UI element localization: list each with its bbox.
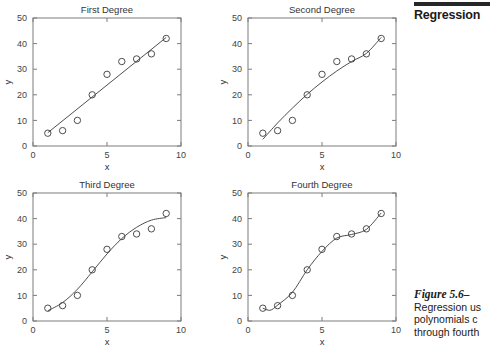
y-tick-label: 20 — [232, 265, 242, 275]
y-tick-label: 0 — [237, 316, 242, 326]
fit-curve — [48, 218, 166, 311]
y-axis-label: y — [2, 79, 13, 84]
x-tick-label: 5 — [319, 150, 324, 160]
y-tick-label: 20 — [17, 90, 27, 100]
y-tick-label: 50 — [232, 188, 242, 198]
x-axis-label: x — [105, 336, 110, 347]
data-point-marker — [334, 233, 340, 239]
plot-panel-third-degree: Third Degree 010203040500510xy — [0, 175, 246, 349]
plot-panel-first-degree: First Degree 010203040500510xy — [0, 0, 246, 175]
data-point-marker — [163, 35, 169, 41]
y-tick-label: 0 — [22, 141, 27, 151]
plot-frame — [33, 193, 181, 321]
x-tick-label: 0 — [245, 325, 250, 335]
figure-caption-title: Figure 5.6– — [414, 288, 492, 301]
x-tick-label: 10 — [176, 325, 186, 335]
data-point-marker — [334, 58, 340, 64]
y-tick-label: 10 — [232, 291, 242, 301]
x-tick-label: 0 — [30, 325, 35, 335]
y-tick-label: 30 — [232, 239, 242, 249]
y-tick-label: 40 — [17, 214, 27, 224]
data-point-marker — [378, 35, 384, 41]
x-axis-label: x — [320, 161, 325, 172]
plot-panel-second-degree: Second Degree 010203040500510xy — [215, 0, 461, 175]
x-axis-label: x — [105, 161, 110, 172]
y-tick-label: 50 — [17, 188, 27, 198]
data-point-marker — [260, 305, 266, 311]
x-tick-label: 10 — [391, 150, 401, 160]
data-point-marker — [274, 127, 280, 133]
data-point-marker — [74, 117, 80, 123]
y-tick-label: 30 — [17, 239, 27, 249]
data-point-marker — [148, 51, 154, 57]
data-point-marker — [74, 292, 80, 298]
y-tick-label: 10 — [17, 116, 27, 126]
y-tick-label: 40 — [232, 39, 242, 49]
y-axis-label: y — [217, 254, 228, 259]
plot-frame — [248, 193, 396, 321]
data-point-marker — [119, 58, 125, 64]
figure-caption-line-3: through fourth — [414, 326, 492, 339]
y-axis-label: y — [217, 79, 228, 84]
y-tick-label: 10 — [17, 291, 27, 301]
data-point-marker — [45, 130, 51, 136]
data-point-marker — [133, 231, 139, 237]
y-tick-label: 40 — [17, 39, 27, 49]
plot-svg-third-degree: 010203040500510xy — [0, 175, 246, 349]
y-tick-label: 20 — [17, 265, 27, 275]
x-tick-label: 5 — [104, 150, 109, 160]
x-tick-label: 10 — [391, 325, 401, 335]
x-tick-label: 0 — [30, 150, 35, 160]
figure-caption: Figure 5.6– Regression us polynomials c … — [414, 288, 492, 338]
y-tick-label: 40 — [232, 214, 242, 224]
data-point-marker — [260, 130, 266, 136]
x-tick-label: 10 — [176, 150, 186, 160]
data-point-marker — [59, 302, 65, 308]
x-tick-label: 5 — [319, 325, 324, 335]
y-tick-label: 30 — [17, 64, 27, 74]
y-axis-label: y — [2, 254, 13, 259]
data-point-marker — [104, 246, 110, 252]
y-tick-label: 50 — [17, 13, 27, 23]
x-tick-label: 0 — [245, 150, 250, 160]
data-point-marker — [104, 71, 110, 77]
y-tick-label: 0 — [22, 316, 27, 326]
data-point-marker — [289, 117, 295, 123]
y-tick-label: 0 — [237, 141, 242, 151]
figure-caption-line-1: Regression us — [414, 301, 492, 314]
y-tick-label: 10 — [232, 116, 242, 126]
y-tick-label: 30 — [232, 64, 242, 74]
plot-svg-second-degree: 010203040500510xy — [215, 0, 461, 175]
data-point-marker — [148, 226, 154, 232]
x-axis-label: x — [320, 336, 325, 347]
data-point-marker — [59, 127, 65, 133]
data-point-marker — [289, 292, 295, 298]
data-point-marker — [319, 71, 325, 77]
plot-svg-first-degree: 010203040500510xy — [0, 0, 246, 175]
x-tick-label: 5 — [104, 325, 109, 335]
figure-caption-line-2: polynomials c — [414, 313, 492, 326]
data-point-marker — [163, 210, 169, 216]
y-tick-label: 20 — [232, 90, 242, 100]
y-tick-label: 50 — [232, 13, 242, 23]
